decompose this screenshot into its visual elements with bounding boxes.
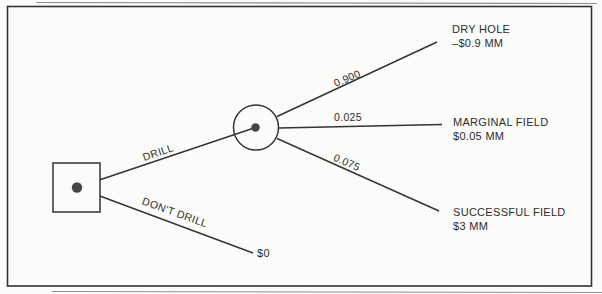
- dry-hole-payoff-label: –$0.9 MM: [452, 36, 510, 50]
- scan-artifact-bottom-line: [52, 292, 602, 293]
- marginal-field-payoff-label: $0.05 MM: [453, 129, 548, 143]
- successful-field-outcome-label: SUCCESSFUL FIELD: [453, 205, 566, 219]
- dont-drill-payoff-label: $0: [257, 247, 270, 259]
- dont-drill-branch-line: [77, 188, 253, 254]
- successful-field-branch-line: [277, 139, 439, 212]
- marginal-field-terminal: MARGINAL FIELD $0.05 MM: [453, 115, 548, 143]
- dry-hole-outcome-label: DRY HOLE: [452, 22, 510, 36]
- decision-tree-drawing: [0, 0, 602, 294]
- successful-field-terminal: SUCCESSFUL FIELD $3 MM: [453, 205, 566, 233]
- marginal-field-branch-line: [279, 125, 443, 129]
- scan-artifact-top-line: [36, 3, 597, 4]
- decision-tree-figure: DRILL DON'T DRILL $0 0.900 0.025 0.075 D…: [0, 0, 602, 294]
- marginal-field-probability-label: 0.025: [334, 111, 362, 123]
- successful-field-payoff-label: $3 MM: [453, 219, 566, 233]
- dry-hole-terminal: DRY HOLE –$0.9 MM: [452, 22, 510, 50]
- marginal-field-outcome-label: MARGINAL FIELD: [453, 115, 548, 129]
- drill-branch-line: [77, 128, 256, 188]
- decision-node-dot: [72, 182, 82, 192]
- chance-node-dot: [251, 123, 259, 131]
